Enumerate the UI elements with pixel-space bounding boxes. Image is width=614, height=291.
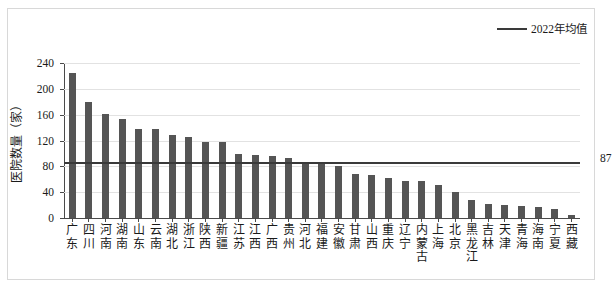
bar-slot (264, 63, 281, 218)
x-axis-label: 天津 (498, 224, 511, 284)
chart-legend: 2022年均值 (497, 22, 587, 36)
bar[interactable] (269, 156, 276, 218)
bar-slot (280, 63, 297, 218)
x-axis-label-slot: 新疆 (214, 224, 231, 284)
x-axis-label-slot: 辽宁 (397, 224, 414, 284)
x-axis-label-slot: 宁夏 (547, 224, 564, 284)
x-axis-label-slot: 湖南 (114, 224, 131, 284)
bar[interactable] (501, 205, 508, 218)
x-axis-label-slot: 甘肃 (347, 224, 364, 284)
x-axis-tick (488, 218, 489, 222)
x-axis-tick (504, 218, 505, 222)
bar-slot (447, 63, 464, 218)
x-axis-tick (421, 218, 422, 222)
x-axis-tick (222, 218, 223, 222)
bar-slot (147, 63, 164, 218)
x-axis-tick (338, 218, 339, 222)
x-axis-label-slot: 西藏 (563, 224, 580, 284)
bar[interactable] (368, 175, 375, 218)
x-axis-label: 安徽 (332, 224, 345, 284)
x-axis-label-slot: 山东 (131, 224, 148, 284)
bar[interactable] (135, 129, 142, 218)
bar-slot (64, 63, 81, 218)
bar[interactable] (402, 181, 409, 218)
x-axis-label: 广西 (266, 224, 279, 284)
bar[interactable] (69, 73, 76, 218)
x-axis-tick (288, 218, 289, 222)
x-axis-tick (371, 218, 372, 222)
x-axis-label: 河北 (299, 224, 312, 284)
y-axis-tick-label: 40 (43, 187, 55, 199)
bar-slot (180, 63, 197, 218)
bar-slot (563, 63, 580, 218)
y-axis-tick-label: 240 (37, 58, 54, 70)
x-axis-label-slot: 江西 (247, 224, 264, 284)
average-reference-line: 87 (64, 162, 580, 164)
x-axis-label: 浙江 (182, 224, 195, 284)
x-axis-label-slot: 海南 (530, 224, 547, 284)
x-axis-label: 宁夏 (548, 224, 561, 284)
x-axis-tick (305, 218, 306, 222)
bar[interactable] (518, 206, 525, 218)
bar[interactable] (435, 185, 442, 218)
bar[interactable] (185, 137, 192, 218)
bar[interactable] (302, 162, 309, 218)
x-axis-label-slot: 云南 (147, 224, 164, 284)
bar[interactable] (318, 164, 325, 218)
bar[interactable] (385, 178, 392, 218)
bar[interactable] (535, 207, 542, 218)
bar[interactable] (152, 129, 159, 218)
bars-group (64, 63, 580, 218)
average-value-label: 87 (600, 152, 614, 164)
bar[interactable] (485, 204, 492, 218)
x-axis-tick (72, 218, 73, 222)
bar[interactable] (452, 192, 459, 218)
bar[interactable] (468, 200, 475, 218)
bar-slot (347, 63, 364, 218)
x-axis-tick (521, 218, 522, 222)
bar[interactable] (352, 174, 359, 218)
bar[interactable] (285, 158, 292, 218)
x-axis-label-slot: 安徽 (330, 224, 347, 284)
x-axis-tick (255, 218, 256, 222)
bar[interactable] (119, 119, 126, 218)
x-axis-label-slot: 上海 (430, 224, 447, 284)
bar[interactable] (85, 102, 92, 218)
bar-slot (114, 63, 131, 218)
x-axis-label: 甘肃 (349, 224, 362, 284)
bar-slot (397, 63, 414, 218)
x-axis-label: 江苏 (232, 224, 245, 284)
x-axis-tick (554, 218, 555, 222)
bar-slot (513, 63, 530, 218)
x-axis-tick (138, 218, 139, 222)
x-axis-label: 上海 (432, 224, 445, 284)
x-axis-label-slot: 吉林 (480, 224, 497, 284)
x-axis-label: 广东 (66, 224, 79, 284)
plot-area: 04080120160200240 87 (64, 63, 580, 218)
x-axis-label: 河南 (99, 224, 112, 284)
bar-slot (247, 63, 264, 218)
x-axis-tick (538, 218, 539, 222)
bar[interactable] (418, 181, 425, 218)
bar-slot (380, 63, 397, 218)
bar[interactable] (335, 166, 342, 218)
x-axis-label: 山西 (365, 224, 378, 284)
x-axis-tick (155, 218, 156, 222)
bar-slot (364, 63, 381, 218)
y-axis-title: 医院数量（家） (9, 63, 25, 218)
x-axis-label: 贵州 (282, 224, 295, 284)
x-axis-label-slot: 天津 (497, 224, 514, 284)
x-axis-label-slot: 河北 (297, 224, 314, 284)
bar[interactable] (169, 135, 176, 218)
x-axis-label: 辽宁 (399, 224, 412, 284)
bar[interactable] (252, 155, 259, 218)
bar[interactable] (551, 209, 558, 218)
bar[interactable] (102, 114, 109, 218)
bar[interactable] (202, 142, 209, 218)
bar-slot (463, 63, 480, 218)
bar-slot (214, 63, 231, 218)
bar[interactable] (219, 142, 226, 218)
x-axis-label: 湖南 (116, 224, 129, 284)
x-axis-label: 西藏 (565, 224, 578, 284)
x-axis-label-slot: 四川 (81, 224, 98, 284)
